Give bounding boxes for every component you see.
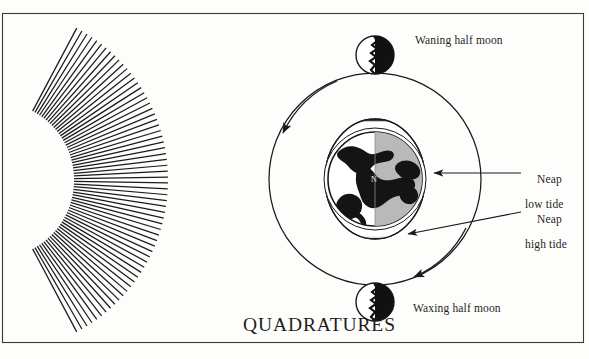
sun-ray [72, 197, 164, 218]
sun-ray [74, 177, 168, 179]
figure-title: QUADRATURES [243, 314, 396, 335]
sun-ray [48, 52, 111, 122]
earth-pole-label: N [371, 175, 377, 184]
sun-ray [72, 142, 164, 163]
sun-ray [48, 238, 111, 308]
sun-ray [68, 114, 155, 150]
label-neap-high-tide: Neap high tide [525, 201, 567, 275]
sun-ray [50, 56, 115, 124]
sun-ray [54, 233, 124, 296]
sun-ray [54, 64, 124, 127]
sun-ray [46, 48, 106, 120]
label-neap-high-tide-line2: high tide [525, 238, 567, 250]
label-waning-half-moon: Waning half moon [415, 34, 503, 46]
label-waxing-half-moon: Waxing half moon [413, 302, 501, 314]
label-neap-high-tide-line1: Neap [537, 213, 562, 225]
sun-ray [37, 246, 87, 326]
orbit-arrow-upper-left [283, 81, 337, 133]
sun-ray [68, 210, 155, 246]
label-neap-low-tide-line1: Neap [537, 173, 562, 185]
orbit-arrow-lower-right [414, 228, 466, 277]
sun-rays [33, 28, 168, 332]
sun-ray [74, 181, 168, 183]
sun-ray [46, 240, 106, 312]
sun-ray [37, 34, 87, 114]
sun-ray [52, 234, 119, 300]
sun-ray [52, 60, 119, 126]
sun-ray [50, 236, 115, 304]
figure-page: N Waning half moon Waxing half moon [0, 0, 589, 359]
